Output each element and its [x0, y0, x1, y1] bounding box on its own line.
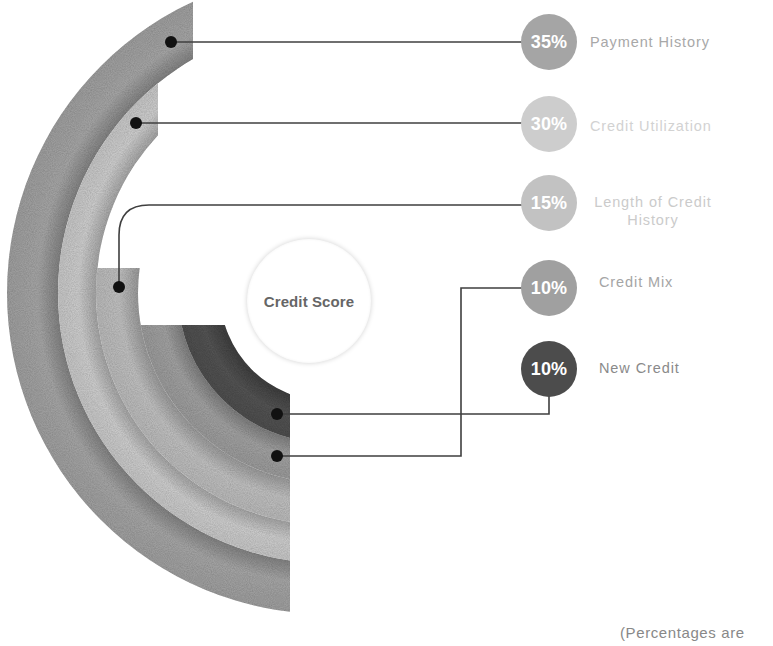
label-length-of-credit-history: Length of Credit History	[589, 193, 717, 229]
dot-new-credit	[271, 408, 283, 420]
badge-length-of-credit-history: 15%	[521, 175, 577, 231]
credit-score-arc-chart	[0, 0, 773, 646]
dot-credit-utilization	[130, 117, 142, 129]
badge-payment-history: 35%	[521, 14, 577, 70]
badge-value: 35%	[531, 32, 568, 53]
connector-new-credit	[277, 390, 549, 414]
badge-value: 10%	[531, 359, 568, 380]
dot-credit-mix	[271, 450, 283, 462]
dot-payment-history	[165, 36, 177, 48]
badge-credit-mix: 10%	[521, 260, 577, 316]
dot-length-of-credit-history	[113, 281, 125, 293]
badge-credit-utilization: 30%	[521, 96, 577, 152]
badge-value: 30%	[531, 114, 568, 135]
center-circle: Credit Score	[247, 239, 371, 363]
label-credit-utilization: Credit Utilization	[590, 117, 712, 135]
footnote: (Percentages are	[620, 624, 745, 641]
badge-value: 15%	[531, 193, 568, 214]
label-line: History	[589, 211, 717, 229]
center-label: Credit Score	[264, 293, 354, 310]
label-new-credit: New Credit	[599, 359, 680, 377]
badge-new-credit: 10%	[521, 341, 577, 397]
label-credit-mix: Credit Mix	[599, 273, 673, 291]
label-payment-history: Payment History	[590, 33, 710, 51]
label-line: Length of Credit	[589, 193, 717, 211]
badge-value: 10%	[531, 278, 568, 299]
